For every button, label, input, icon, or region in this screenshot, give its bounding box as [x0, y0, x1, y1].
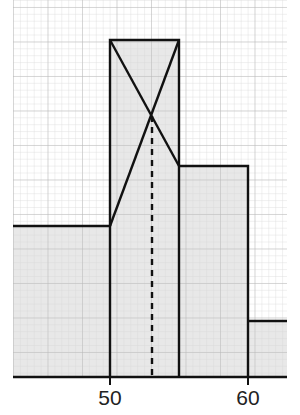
histogram-chart: [0, 0, 300, 415]
x-tick-label-50: 50: [98, 386, 121, 410]
x-tick-label-60: 60: [236, 386, 259, 410]
grid-major: [13, 0, 287, 377]
